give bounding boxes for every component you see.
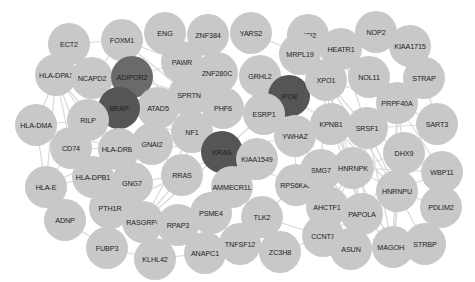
node-label: ZNF280C bbox=[202, 69, 232, 78]
node-label: GRHL2 bbox=[248, 72, 271, 81]
node-label: XPO1 bbox=[317, 76, 336, 85]
node-label: AHCTF1 bbox=[313, 203, 340, 212]
node-label: NCAPD2 bbox=[78, 74, 107, 83]
node-label: RPAP3 bbox=[167, 221, 190, 230]
node-label: TLK2 bbox=[254, 213, 271, 222]
node-label: PDLIM2 bbox=[428, 203, 453, 212]
node-label: ESRP1 bbox=[252, 110, 275, 119]
node-label: YARS2 bbox=[240, 29, 263, 38]
node-label: HLA-DPA1 bbox=[39, 71, 73, 80]
node-label: MRPL19 bbox=[286, 50, 313, 59]
node-klhl42[interactable]: KLHL42 bbox=[134, 238, 176, 280]
node-fubp3[interactable]: FUBP3 bbox=[86, 227, 128, 269]
node-zc3h8[interactable]: ZC3H8 bbox=[259, 231, 301, 273]
node-label: PRPF40A bbox=[381, 99, 412, 108]
node-label: GNAI2 bbox=[141, 140, 162, 149]
node-label: FOXM1 bbox=[110, 36, 134, 45]
node-strbp[interactable]: STRBP bbox=[404, 223, 446, 265]
node-label: FUBP3 bbox=[96, 244, 119, 253]
node-label: IPO8 bbox=[281, 92, 297, 101]
node-adnp[interactable]: ADNP bbox=[44, 199, 86, 241]
node-label: ZC3H8 bbox=[269, 248, 291, 257]
node-label: ENG bbox=[157, 29, 172, 38]
node-label: YWHAZ bbox=[282, 132, 307, 141]
node-label: KLHL42 bbox=[142, 255, 167, 264]
node-label: ADNP bbox=[55, 216, 75, 225]
node-label: SPRTN bbox=[177, 91, 201, 100]
node-label: NOL11 bbox=[358, 73, 380, 82]
node-label: HEATR1 bbox=[327, 45, 354, 54]
node-pdlim2[interactable]: PDLIM2 bbox=[420, 186, 462, 228]
node-label: KIAA1715 bbox=[394, 42, 426, 51]
node-hnrnpu[interactable]: HNRNPU bbox=[376, 170, 418, 212]
node-label: STRBP bbox=[413, 240, 436, 249]
node-label: AMMECR1L bbox=[212, 183, 251, 192]
node-label: HLA-DMA bbox=[20, 121, 52, 130]
node-label: ANAPC1 bbox=[191, 249, 219, 258]
node-label: ZNF384 bbox=[195, 31, 220, 40]
node-label: NF1 bbox=[185, 128, 198, 137]
node-sart3[interactable]: SART3 bbox=[416, 103, 458, 145]
node-label: ATAD5 bbox=[147, 104, 169, 113]
node-label: GNG7 bbox=[122, 179, 142, 188]
node-xpo1[interactable]: XPO1 bbox=[305, 59, 347, 101]
node-label: SMG7 bbox=[311, 166, 331, 175]
node-hnrnpk[interactable]: HNRNPK bbox=[332, 147, 374, 189]
node-label: HLA-DPB1 bbox=[76, 173, 110, 182]
node-prpf40a[interactable]: PRPF40A bbox=[376, 82, 418, 124]
node-label: KRAS bbox=[212, 148, 231, 157]
node-label: HNRNPU bbox=[382, 187, 412, 196]
node-yars2[interactable]: YARS2 bbox=[230, 12, 272, 54]
node-label: PAWR bbox=[172, 58, 192, 67]
node-label: PSME4 bbox=[199, 209, 223, 218]
node-label: CD74 bbox=[62, 144, 80, 153]
node-label: TNFSF12 bbox=[225, 240, 255, 249]
node-label: RRAS bbox=[172, 171, 192, 180]
node-label: ASUN bbox=[341, 245, 361, 254]
node-label: SART3 bbox=[426, 120, 449, 129]
node-tnfsf12[interactable]: TNFSF12 bbox=[219, 223, 261, 265]
node-label: NOP2 bbox=[366, 28, 385, 37]
network-diagram: ECT2FOXM1ENGZNF384YARS2MSI2NOP2KIAA1715H… bbox=[0, 0, 475, 282]
node-label: PTH1R bbox=[98, 204, 121, 213]
node-label: HLA-E bbox=[36, 183, 57, 192]
node-label: KIAA1549 bbox=[241, 155, 273, 164]
node-label: STRAP bbox=[412, 74, 435, 83]
node-label: RASGRP4 bbox=[126, 218, 160, 227]
node-label: HNRNPK bbox=[338, 164, 368, 173]
node-rras[interactable]: RRAS bbox=[161, 154, 203, 196]
node-label: RILP bbox=[80, 116, 96, 125]
node-label: ECT2 bbox=[60, 40, 78, 49]
node-label: SRSF1 bbox=[356, 124, 379, 133]
node-label: DHX9 bbox=[395, 149, 414, 158]
node-asun[interactable]: ASUN bbox=[330, 228, 372, 270]
node-label: ADIPOR2 bbox=[117, 73, 148, 82]
node-label: KPNB1 bbox=[319, 120, 342, 129]
node-label: PAPOLA bbox=[348, 210, 376, 219]
node-dhx9[interactable]: DHX9 bbox=[383, 132, 425, 174]
node-label: PHF6 bbox=[214, 104, 232, 113]
node-foxm1[interactable]: FOXM1 bbox=[101, 19, 143, 61]
node-label: WBP11 bbox=[430, 168, 453, 177]
node-label: BRAP bbox=[109, 104, 128, 113]
